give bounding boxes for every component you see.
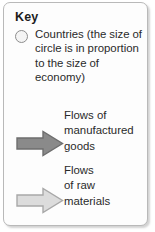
label-line-3: goods: [64, 139, 148, 154]
legend-entry-manufactured-goods-label: Flows of manufactured goods: [64, 108, 148, 154]
map-key-legend-box: Key Countries (the size of circle is in …: [3, 2, 148, 226]
legend-entry-raw-materials-label: Flows of raw materials: [64, 163, 148, 209]
label-line-1: Flows of: [64, 108, 148, 123]
label-line-1: Flows: [64, 163, 148, 178]
circle-symbol-icon: [15, 30, 28, 43]
arrow-right-light-icon: [16, 187, 64, 218]
label-line-3: materials: [64, 194, 148, 209]
label-line-2: of raw: [64, 178, 148, 193]
arrow-right-dark-icon: [16, 130, 64, 161]
legend-title: Key: [15, 10, 38, 24]
label-line-2: manufactured: [64, 123, 148, 138]
legend-entry-countries-label: Countries (the size of circle is in prop…: [35, 27, 147, 85]
